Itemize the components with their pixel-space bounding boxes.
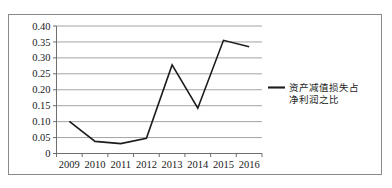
y-tick-label: 0.05 (32, 132, 50, 143)
legend: 资产减值损失占 净利润之比 (268, 82, 359, 105)
y-tick-label: 0.35 (32, 37, 50, 48)
y-tick-label: 0.30 (32, 52, 50, 63)
x-tick-label: 2009 (59, 159, 80, 170)
x-tick-label: 2010 (85, 159, 106, 170)
gridlines-group (53, 26, 262, 154)
line-chart: 00.050.100.150.200.250.300.350.40 200920… (0, 0, 392, 188)
legend-label-line2: 净利润之比 (289, 94, 339, 105)
legend-label-line1: 资产减值损失占 (289, 82, 359, 93)
x-tick-label: 2016 (239, 159, 260, 170)
x-tick-label: 2013 (162, 159, 183, 170)
x-tick-label: 2014 (187, 159, 209, 170)
y-axis-tick-labels: 00.050.100.150.200.250.300.350.40 (32, 21, 50, 160)
x-tick-label: 2015 (213, 159, 234, 170)
y-tick-label: 0 (45, 148, 50, 159)
y-tick-label: 0.40 (32, 21, 50, 32)
y-tick-label: 0.10 (32, 116, 50, 127)
y-tick-label: 0.20 (32, 84, 50, 95)
series-line-asset-impairment-ratio (69, 40, 249, 143)
chart-figure: 00.050.100.150.200.250.300.350.40 200920… (0, 0, 392, 188)
y-tick-label: 0.15 (32, 100, 50, 111)
data-series-group (69, 40, 249, 143)
x-axis-tick-labels: 20092010201120122013201420152016 (59, 159, 260, 170)
y-tick-label: 0.25 (32, 68, 50, 79)
x-tick-label: 2012 (136, 159, 157, 170)
x-tick-label: 2011 (110, 159, 131, 170)
x-axis-tick-marks (57, 154, 263, 158)
